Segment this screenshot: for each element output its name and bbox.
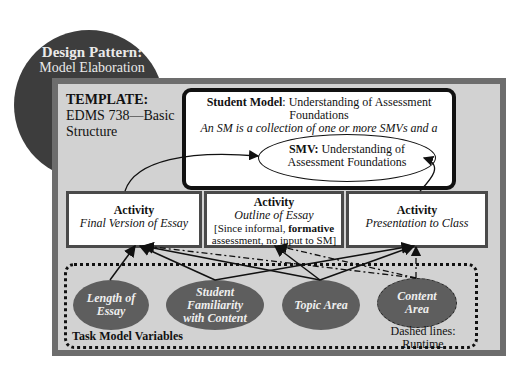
arrow-final-essay-to-smv	[125, 154, 258, 191]
arrow-presentation-to-smv	[420, 158, 435, 191]
connector-arrows	[0, 0, 506, 383]
